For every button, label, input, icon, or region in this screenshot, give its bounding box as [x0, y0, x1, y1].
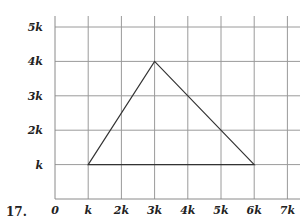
y-tick-label: 5k: [28, 21, 44, 34]
x-tick-label: 3k: [147, 204, 163, 217]
y-tick-label: 3k: [28, 90, 44, 103]
x-tick-label: 7k: [280, 204, 296, 217]
x-axis-tick-labels: 0k2k3k4k5k6k7k: [51, 204, 295, 217]
x-tick-label: 2k: [113, 204, 130, 217]
x-tick-label: 5k: [213, 204, 229, 217]
problem-number: 17.: [6, 205, 27, 219]
x-tick-label: 6k: [247, 204, 263, 217]
x-tick-label: 4k: [180, 204, 196, 217]
y-tick-label: k: [35, 159, 43, 172]
axes: [55, 16, 300, 199]
y-axis-tick-labels: k2k3k4k5k: [27, 21, 44, 172]
triangle-shape: [88, 61, 254, 164]
y-tick-label: 4k: [28, 55, 44, 68]
x-tick-label: 0: [51, 204, 59, 217]
grid-lines: [55, 16, 300, 199]
y-tick-label: 2k: [27, 124, 44, 137]
x-tick-label: k: [84, 204, 92, 217]
series-triangle: [88, 61, 254, 164]
coordinate-grid-chart: 0k2k3k4k5k6k7k k2k3k4k5k 17.: [0, 0, 308, 222]
